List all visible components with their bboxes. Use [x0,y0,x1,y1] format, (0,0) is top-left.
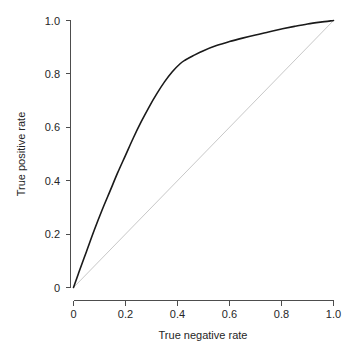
y-tick-label: 0.4 [45,175,60,187]
y-tick-label: 0.6 [45,121,60,133]
roc-plot-figure: 0 0.2 0.4 0.6 0.8 1.0 0 0.2 0.4 0.6 0.8 … [0,0,352,348]
x-axis-ticks [74,301,334,306]
y-tick-label: 0.2 [45,228,60,240]
y-axis-tick-labels: 0 0.2 0.4 0.6 0.8 1.0 [45,15,60,294]
y-axis-title: True positive rate [15,112,27,197]
chance-diagonal-line [74,21,334,288]
x-tick-label: 1.0 [326,308,341,320]
y-axis-ticks [66,21,71,288]
plot-canvas: 0 0.2 0.4 0.6 0.8 1.0 0 0.2 0.4 0.6 0.8 … [0,0,352,348]
y-tick-label: 0 [54,282,60,294]
y-tick-label: 0.8 [45,68,60,80]
x-tick-label: 0 [70,308,76,320]
x-axis-title: True negative rate [159,329,248,341]
x-tick-label: 0.2 [118,308,133,320]
x-tick-label: 0.8 [274,308,289,320]
x-tick-label: 0.4 [170,308,185,320]
y-tick-label: 1.0 [45,15,60,27]
x-tick-label: 0.6 [222,308,237,320]
x-axis-tick-labels: 0 0.2 0.4 0.6 0.8 1.0 [70,308,341,320]
